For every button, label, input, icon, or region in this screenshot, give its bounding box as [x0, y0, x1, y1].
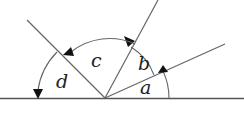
label-d: d: [56, 70, 68, 92]
label-c: c: [91, 49, 102, 71]
label-b: b: [138, 52, 150, 74]
label-a: a: [140, 76, 151, 98]
angle-diagram: a b c d: [0, 0, 244, 118]
arc-d: [38, 52, 57, 90]
arc-c: [71, 39, 135, 52]
diagram-canvas: a b c d: [0, 0, 244, 118]
arrow-d-icon: [33, 89, 43, 99]
arc-a: [163, 71, 169, 98]
arrow-a-icon: [158, 65, 168, 73]
arrow-c-icon: [63, 47, 74, 56]
